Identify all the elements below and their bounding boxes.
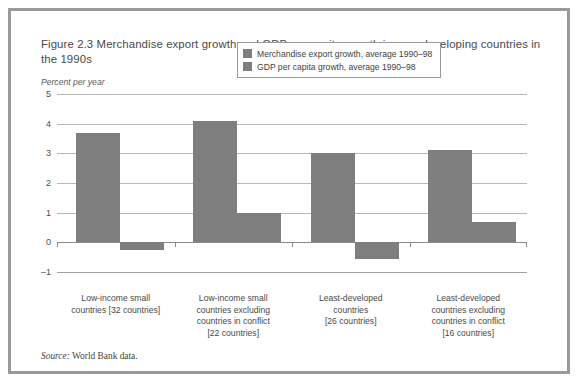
y-axis-tick-label: –1 [41,267,51,277]
y-axis-tick-label: 2 [46,178,51,188]
x-axis-category-label: Least-developedcountries[26 countries] [292,293,410,328]
figure-frame: Figure 2.3 Merchandise export growth and… [8,8,570,374]
chart-bar [428,150,472,242]
x-axis-tick-mark [410,242,411,247]
y-axis-tick-label: 0 [46,237,51,247]
x-axis-category-label: Least-developedcountries excludingcountr… [410,293,528,339]
x-axis-tick-mark [292,242,293,247]
legend-swatch-icon [243,49,252,58]
x-axis-tick-mark [175,242,176,247]
chart-bar [355,242,399,258]
legend-item-merchandise-export-growth: Merchandise export growth, average 1990–… [243,47,432,60]
chart-plot-area: 543210–1 [57,94,527,272]
legend-item-label: GDP per capita growth, average 1990–98 [257,62,415,72]
gridline: –1 [57,272,527,273]
y-axis-tick-label: 4 [46,119,51,129]
y-axis-tick-label: 5 [46,89,51,99]
gridline: 5 [57,94,527,95]
chart-bar [193,121,237,243]
gridline: 4 [57,124,527,125]
source-prefix: Source: [41,351,70,361]
x-axis-category-labels: Low-income smallcountries [32 countries]… [57,293,527,345]
chart-bar [120,242,164,249]
x-axis-category-label: Low-income smallcountries excludingcount… [175,293,293,339]
source-note: Source: World Bank data. [41,351,138,361]
x-axis-tick-mark [526,242,527,247]
x-axis-tick-mark [57,242,58,247]
chart-bar [237,213,281,243]
y-axis-tick-label: 1 [46,208,51,218]
chart-legend: Merchandise export growth, average 1990–… [237,42,441,78]
legend-swatch-icon [243,62,252,71]
y-axis-tick-label: 3 [46,148,51,158]
legend-item-gdp-per-capita-growth: GDP per capita growth, average 1990–98 [243,60,432,73]
chart-bar [311,153,355,242]
source-text: World Bank data. [70,351,138,361]
figure-inner-panel: Figure 2.3 Merchandise export growth and… [15,15,563,367]
chart-bar [472,222,516,243]
legend-item-label: Merchandise export growth, average 1990–… [257,49,432,59]
y-axis-unit-label: Percent per year [41,77,105,87]
x-axis-category-label: Low-income smallcountries [32 countries] [57,293,175,316]
chart-bar [76,133,120,243]
